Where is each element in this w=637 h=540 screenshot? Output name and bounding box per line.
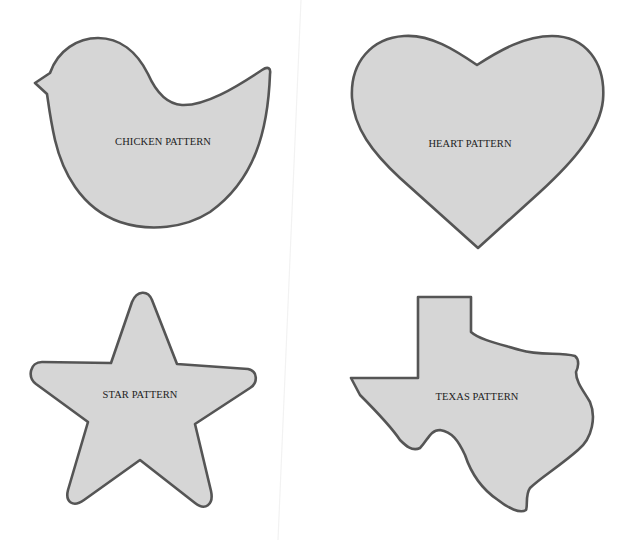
pattern-sheet: CHICKEN PATTERN HEART PATTERN STAR PATTE… (0, 0, 637, 540)
star-pattern-shape (31, 293, 256, 507)
chicken-pattern-shape (35, 38, 270, 227)
chicken-pattern-label: CHICKEN PATTERN (115, 136, 211, 147)
heart-pattern-label: HEART PATTERN (428, 138, 511, 149)
texas-pattern-label: TEXAS PATTERN (436, 391, 519, 402)
star-pattern-label: STAR PATTERN (103, 389, 178, 400)
pattern-shapes (0, 0, 637, 540)
texas-pattern-shape (351, 297, 593, 511)
